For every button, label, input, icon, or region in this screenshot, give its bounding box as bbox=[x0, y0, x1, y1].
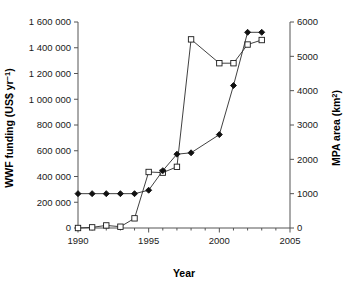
data-point-filled-diamond bbox=[89, 191, 95, 197]
x-axis-tick-label: 2005 bbox=[279, 235, 300, 246]
x-axis-tick-label: 2000 bbox=[209, 235, 230, 246]
data-point-open-square bbox=[118, 224, 123, 229]
right-axis-tick-label: 2000 bbox=[297, 154, 318, 165]
right-axis-tick-label: 0 bbox=[297, 222, 302, 233]
data-point-open-square bbox=[231, 61, 236, 66]
right-axis-tick-label: 5000 bbox=[297, 51, 318, 62]
left-axis-tick-label: 400 000 bbox=[37, 171, 71, 182]
data-point-open-square bbox=[217, 61, 222, 66]
data-point-open-square bbox=[259, 37, 264, 42]
data-point-open-square bbox=[132, 216, 137, 221]
data-point-open-square bbox=[245, 42, 250, 47]
series-line-0 bbox=[78, 39, 262, 228]
data-point-open-square bbox=[146, 169, 151, 174]
data-point-filled-diamond bbox=[75, 191, 81, 197]
data-point-filled-diamond bbox=[188, 150, 194, 156]
data-point-open-square bbox=[89, 225, 94, 230]
wwf-funding-mpa-area-chart: 0200 000400 000600 000800 0001 000 0001 … bbox=[0, 0, 351, 286]
data-point-filled-diamond bbox=[259, 29, 265, 35]
x-axis-tick-label: 1995 bbox=[138, 235, 159, 246]
left-axis-tick-label: 1 400 000 bbox=[29, 42, 71, 53]
right-axis-tick-label: 4000 bbox=[297, 85, 318, 96]
series-mpa-area bbox=[75, 29, 265, 196]
chart-container: 0200 000400 000600 000800 0001 000 0001 … bbox=[0, 0, 351, 286]
data-point-filled-diamond bbox=[132, 191, 138, 197]
series-wwf-funding bbox=[75, 37, 264, 231]
series-group bbox=[75, 29, 265, 230]
data-point-filled-diamond bbox=[146, 187, 152, 193]
left-axis-title: WWF funding (US$ yr−1) bbox=[3, 68, 15, 187]
data-point-filled-diamond bbox=[103, 191, 109, 197]
right-axis: 0100020003000400050006000 bbox=[290, 16, 318, 233]
left-axis-tick-label: 600 000 bbox=[37, 145, 71, 156]
right-axis-title: MPA area (km2) bbox=[330, 90, 342, 166]
data-point-filled-diamond bbox=[216, 132, 222, 138]
data-point-open-square bbox=[104, 223, 109, 228]
left-axis: 0200 000400 000600 000800 0001 000 0001 … bbox=[29, 16, 78, 233]
data-point-open-square bbox=[174, 164, 179, 169]
left-axis-tick-label: 800 000 bbox=[37, 119, 71, 130]
left-axis-tick-label: 0 bbox=[66, 222, 71, 233]
data-point-open-square bbox=[75, 225, 80, 230]
data-point-filled-diamond bbox=[117, 191, 123, 197]
data-point-open-square bbox=[188, 37, 193, 42]
left-axis-tick-label: 1 600 000 bbox=[29, 16, 71, 27]
right-axis-tick-label: 1000 bbox=[297, 188, 318, 199]
data-point-filled-diamond bbox=[230, 83, 236, 89]
data-point-filled-diamond bbox=[245, 29, 251, 35]
right-axis-tick-label: 3000 bbox=[297, 119, 318, 130]
x-axis-title: Year bbox=[173, 267, 195, 279]
left-axis-tick-label: 200 000 bbox=[37, 197, 71, 208]
x-axis-tick-label: 1990 bbox=[67, 235, 88, 246]
left-axis-tick-label: 1 200 000 bbox=[29, 68, 71, 79]
x-axis: 1990199520002005 bbox=[67, 228, 300, 246]
right-axis-tick-label: 6000 bbox=[297, 16, 318, 27]
left-axis-tick-label: 1 000 000 bbox=[29, 94, 71, 105]
